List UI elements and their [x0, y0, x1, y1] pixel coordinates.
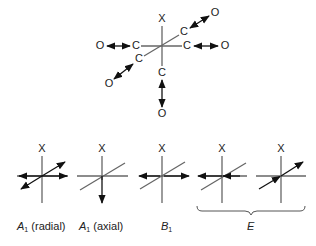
arrow-upper-right	[281, 162, 303, 176]
axis-label-x: X	[277, 142, 285, 154]
carbon-upper-right: C	[180, 25, 188, 37]
label-a1-axial: A1 (axial)	[78, 220, 123, 233]
stretch-arrow-lower-left	[114, 64, 133, 79]
oxygen-left: O	[96, 39, 105, 51]
mode-e-first: X	[198, 142, 247, 203]
oxygen-lower-left: O	[105, 77, 114, 89]
label-b1: B1	[161, 220, 172, 233]
label-a1-radial: A1 (radial)	[16, 220, 66, 233]
oxygen-right: O	[221, 39, 230, 51]
carbon-lower-left: C	[135, 52, 143, 64]
carbon-bottom: C	[158, 66, 166, 78]
mode-b1: X	[139, 142, 189, 203]
mode-a1-axial: X	[77, 142, 128, 203]
axis-label-x: X	[38, 142, 46, 154]
oxygen-bottom: O	[158, 107, 167, 119]
molecule-structure: X C C C C C O O O O O	[96, 6, 230, 119]
label-e: E	[247, 220, 255, 232]
arrow-upper-right	[42, 162, 65, 176]
axis-label-x: X	[98, 142, 106, 154]
e-brace	[197, 206, 305, 215]
arrow-lower-left	[21, 176, 42, 189]
mode-a1-radial: X	[17, 142, 68, 203]
symmetry-modes-diagram: X C C C C C O O O O O X X	[0, 0, 316, 246]
stretch-arrow-upper-right	[190, 16, 209, 28]
mode-e-second: X	[256, 142, 306, 203]
arrow-inward	[259, 177, 280, 190]
carbon-left: C	[132, 39, 140, 51]
axis-label-x: X	[158, 142, 166, 154]
axis-label-x: X	[218, 142, 226, 154]
carbon-right: C	[183, 39, 191, 51]
axis-label-x: X	[158, 12, 166, 24]
oxygen-upper-right: O	[211, 6, 220, 18]
